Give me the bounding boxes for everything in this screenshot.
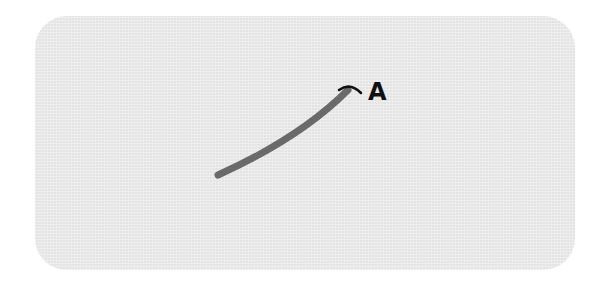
curve-stroke [218, 90, 348, 175]
diagram-canvas [0, 0, 605, 287]
point-label: A [368, 78, 387, 106]
